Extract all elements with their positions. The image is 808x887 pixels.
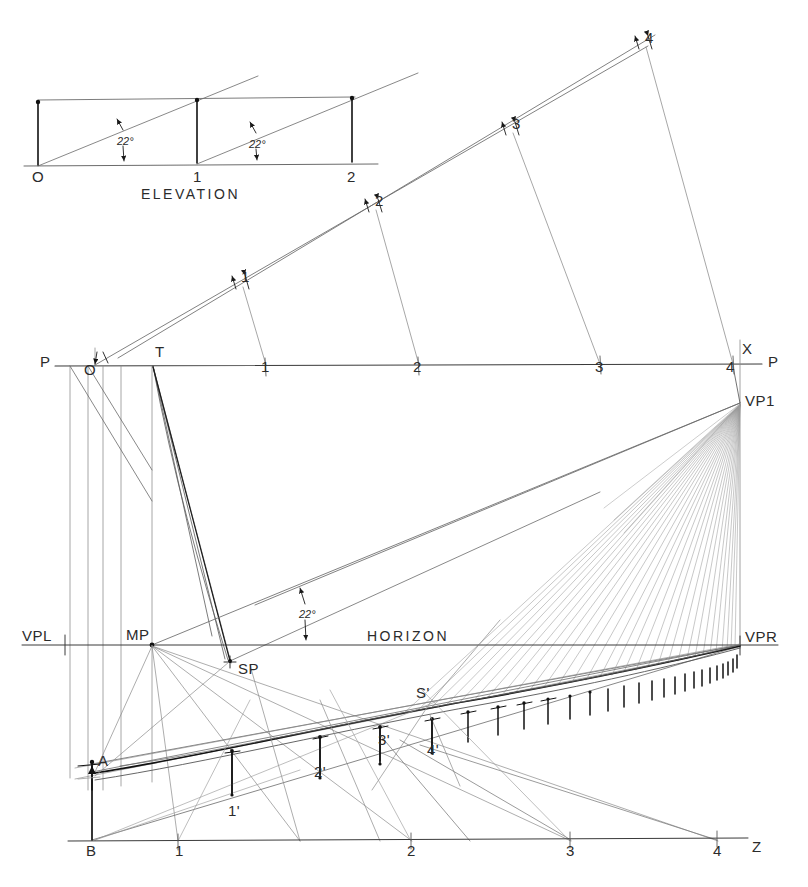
horizon-angle-arrow-up — [300, 588, 305, 604]
vertical-projectors-left — [70, 366, 152, 790]
elevation-angle-arrow-1a — [117, 119, 123, 130]
vp1: VP1 — [745, 392, 775, 409]
incline-3: 3 — [512, 115, 521, 132]
A-to-VPR-lower — [92, 645, 740, 772]
diag-3 — [250, 665, 300, 841]
lower-diagonals — [95, 620, 500, 841]
gl-tick-4: 4 — [713, 842, 722, 859]
elev-angle-2: 22° — [249, 138, 266, 150]
mp-ray-3 — [152, 646, 412, 841]
projector-incline-3 — [513, 133, 600, 364]
T-to-SP — [153, 367, 230, 661]
elevation-caption: ELEVATION — [141, 186, 240, 202]
pp-tick-3: 3 — [595, 358, 604, 375]
pp-T: T — [155, 343, 165, 360]
vp1-dense-fan — [404, 405, 740, 713]
pp-right-P: P — [768, 353, 779, 370]
horizon-angle-arrow-down — [305, 620, 306, 640]
gl-tick-2: 2 — [407, 842, 416, 859]
pp-tick-1: 1 — [261, 358, 270, 375]
vp1-rays — [152, 366, 740, 645]
horizon-angle: 22° — [299, 608, 316, 620]
B-to-VPR — [92, 646, 740, 840]
projector-incline-2 — [376, 210, 419, 365]
elev-2: 2 — [347, 168, 356, 185]
pt-4-prime: 4' — [427, 741, 439, 758]
gl-tick-3: 3 — [566, 842, 575, 859]
vpr-rays — [75, 644, 740, 840]
pp-left-P: P — [40, 353, 51, 370]
ground-line — [68, 838, 748, 841]
perspective-construction-svg — [0, 0, 808, 887]
P-diagonal — [70, 366, 152, 501]
incline-4: 4 — [645, 29, 654, 46]
pt-3-prime: 3' — [378, 731, 390, 748]
incline-2: 2 — [375, 192, 384, 209]
elevation-angle-arrow-1b — [123, 146, 124, 161]
riser-crossticks — [225, 698, 556, 753]
elevation-angle-arrow-2b — [256, 149, 257, 160]
gl-tick-1: 1 — [175, 842, 184, 859]
pp-X: X — [742, 340, 753, 357]
primed-risers — [232, 720, 432, 795]
incline-1: 1 — [241, 268, 250, 285]
picture-plane-line — [55, 364, 762, 366]
A-band-top — [75, 644, 740, 768]
horizon-text: HORIZON — [367, 628, 449, 644]
vpr: VPR — [745, 628, 777, 645]
mp: MP — [126, 626, 150, 643]
mp-ray-4 — [152, 646, 571, 841]
pt-B: B — [86, 842, 97, 859]
elev-angle-1: 22° — [117, 135, 134, 147]
gl-Z: Z — [752, 838, 762, 855]
pt-2-prime: 2' — [314, 763, 326, 780]
s-prime: S' — [416, 684, 430, 701]
elevation-angle-arrow-2a — [250, 122, 256, 133]
pp-O: O — [84, 361, 96, 378]
true-height-bar — [78, 760, 100, 840]
sp: SP — [238, 660, 259, 677]
pt-A: A — [98, 752, 109, 769]
elev-1: 1 — [193, 168, 202, 185]
pp-tick-2: 2 — [413, 358, 422, 375]
elev-O: O — [32, 168, 44, 185]
drawing-canvas: O1222°22°ELEVATION1234PPXOT1234VP1VPLVPR… — [0, 0, 808, 887]
projector-incline-4 — [646, 47, 733, 364]
projector-incline-1 — [243, 287, 266, 365]
O-diagonal — [88, 366, 152, 470]
elevation-baseline — [24, 164, 378, 166]
elevation-incline-2 — [197, 73, 418, 164]
elevation-group — [24, 73, 418, 166]
pp-tick-4: 4 — [726, 358, 735, 375]
pt-1-prime: 1' — [228, 802, 240, 819]
vpl: VPL — [22, 627, 52, 644]
